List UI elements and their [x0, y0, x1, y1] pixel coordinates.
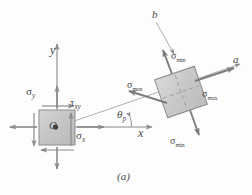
sigma-max-left-label: σmax: [127, 80, 142, 92]
origin-label: O: [49, 120, 57, 131]
theta-subscript: p: [122, 115, 125, 123]
sigma-x-subscript: x: [82, 136, 85, 144]
tau-xy-label: τxy: [70, 97, 80, 111]
stress-element-square-right: [155, 66, 208, 117]
sigma-max-subscript: max: [132, 85, 142, 92]
sigma-y-subscript: y: [32, 92, 35, 100]
principal-axis-a-label: a: [233, 54, 239, 65]
y-axis-label: y: [50, 44, 55, 56]
sigma-x-label: σx: [76, 130, 85, 144]
theta-p-label: θp: [117, 109, 126, 123]
figure-caption: (a): [117, 170, 130, 182]
theta-p-arc: [130, 117, 132, 126]
x-axis-label: x: [138, 127, 143, 139]
sigma-max-subscript: max: [207, 94, 217, 101]
sigma-min-subscript: min: [175, 141, 184, 148]
sigma-max-right-label: σmax: [202, 89, 217, 101]
tau-xy-subscript: xy: [74, 103, 80, 111]
sigma-min-subscript: min: [176, 56, 185, 63]
principal-axis-b-label: b: [152, 9, 158, 20]
sigma-y-label: σy: [26, 86, 35, 100]
stress-element-figure: y x θp b a O σy σx τxy σmax σmax σmin σm…: [0, 0, 252, 195]
sigma-min-top-label: σmin: [171, 51, 185, 63]
sigma-min-bottom-label: σmin: [170, 136, 184, 148]
